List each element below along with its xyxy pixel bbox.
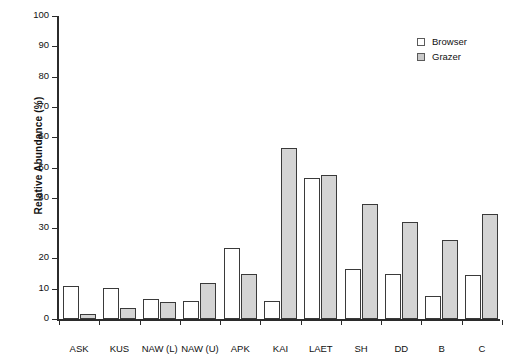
legend-label-grazer: Grazer bbox=[432, 51, 461, 62]
bar-grazer-sh bbox=[362, 204, 378, 319]
x-tick bbox=[140, 320, 141, 325]
x-category-label: B bbox=[438, 343, 444, 354]
x-category-label: DD bbox=[394, 343, 408, 354]
bar-browser-c bbox=[465, 275, 481, 319]
x-tick bbox=[260, 320, 261, 325]
bar-grazer-laet bbox=[321, 175, 337, 319]
y-tick-label: 10 bbox=[23, 282, 49, 293]
bar-grazer-dd bbox=[402, 222, 418, 319]
legend-label-browser: Browser bbox=[432, 36, 467, 47]
y-tick-label: 0 bbox=[23, 312, 49, 323]
y-tick-label: 50 bbox=[23, 161, 49, 172]
bar-browser-kus bbox=[103, 288, 119, 319]
bar-browser-b bbox=[425, 296, 441, 319]
y-tick-label: 90 bbox=[23, 39, 49, 50]
bar-browser-laet bbox=[304, 178, 320, 319]
x-category-label: KAI bbox=[273, 343, 288, 354]
legend-item-browser: Browser bbox=[417, 34, 467, 49]
x-tick bbox=[99, 320, 100, 325]
y-tick-label: 100 bbox=[23, 9, 49, 20]
y-tick-label: 20 bbox=[23, 251, 49, 262]
x-tick bbox=[220, 320, 221, 325]
x-category-label: NAW (U) bbox=[181, 343, 219, 354]
x-tick bbox=[502, 320, 503, 325]
bar-grazer-c bbox=[482, 214, 498, 319]
x-tick bbox=[462, 320, 463, 325]
bar-browser-dd bbox=[385, 274, 401, 319]
bar-grazer-naw-l bbox=[160, 302, 176, 319]
x-tick bbox=[301, 320, 302, 325]
y-tick-label: 30 bbox=[23, 221, 49, 232]
x-category-label: LAET bbox=[309, 343, 333, 354]
y-tick-label: 60 bbox=[23, 130, 49, 141]
x-tick bbox=[341, 320, 342, 325]
filled-square-icon bbox=[417, 53, 425, 61]
bar-browser-kai bbox=[264, 301, 280, 319]
y-tick-label: 70 bbox=[23, 100, 49, 111]
open-square-icon bbox=[417, 38, 425, 46]
x-category-label: APK bbox=[231, 343, 250, 354]
bar-grazer-ask bbox=[80, 314, 96, 319]
x-category-label: ASK bbox=[70, 343, 89, 354]
bar-grazer-kai bbox=[281, 148, 297, 319]
x-tick bbox=[421, 320, 422, 325]
x-category-label: KUS bbox=[110, 343, 130, 354]
legend: Browser Grazer bbox=[417, 34, 467, 64]
bar-grazer-apk bbox=[241, 274, 257, 319]
x-category-label: NAW (L) bbox=[142, 343, 178, 354]
bar-grazer-kus bbox=[120, 308, 136, 319]
y-tick-label: 80 bbox=[23, 70, 49, 81]
x-tick bbox=[59, 320, 60, 325]
bar-browser-apk bbox=[224, 248, 240, 319]
bar-chart-figure: Relative Abundance (%) 01020304050607080… bbox=[0, 0, 511, 361]
bar-grazer-b bbox=[442, 240, 458, 319]
bar-browser-ask bbox=[63, 286, 79, 319]
y-tick-label: 40 bbox=[23, 191, 49, 202]
bar-browser-sh bbox=[345, 269, 361, 319]
bar-browser-naw-u bbox=[183, 301, 199, 319]
x-category-label: SH bbox=[354, 343, 367, 354]
x-tick bbox=[180, 320, 181, 325]
bar-grazer-naw-u bbox=[200, 283, 216, 319]
legend-item-grazer: Grazer bbox=[417, 49, 467, 64]
bar-browser-naw-l bbox=[143, 299, 159, 319]
x-tick bbox=[381, 320, 382, 325]
x-category-label: C bbox=[478, 343, 485, 354]
